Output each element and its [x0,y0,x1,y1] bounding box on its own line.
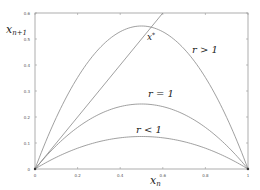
y-tick-label: 0.6 [24,11,31,16]
x-tick-label: 0.2 [74,173,81,178]
y-tick-label: 0.4 [24,63,31,68]
x-tick-label: 0.6 [160,173,167,178]
x-tick-label: 0 [34,173,37,178]
x-tick-label: 0.8 [202,173,209,178]
chart: 00.20.40.60.81 00.10.20.30.40.50.6 xn+1 … [0,0,260,190]
curves [34,13,249,170]
label-r-equal-1: r = 1 [148,88,174,99]
y-axis-label: xn+1 [6,23,27,37]
curve-r-1 [35,137,248,170]
y-tick-label: 0.3 [24,89,31,94]
curve-diagonal [35,13,163,169]
label-r-greater-1: r > 1 [192,44,218,55]
fixed-point-label: x* [147,31,155,42]
y-tick-label: 0.5 [24,37,31,42]
fixed-point-marker [34,168,36,170]
x-tick-label: 0.4 [117,173,124,178]
fixed-point-marker [247,168,249,170]
label-r-less-1: r < 1 [136,124,162,135]
y-tick-label: 0.2 [24,115,31,120]
plot-frame [35,13,248,169]
y-ticks: 00.10.20.30.40.50.6 [24,11,248,172]
y-tick-label: 0.1 [24,141,31,146]
y-tick-label: 0 [27,167,30,172]
x-tick-label: 1 [247,173,250,178]
